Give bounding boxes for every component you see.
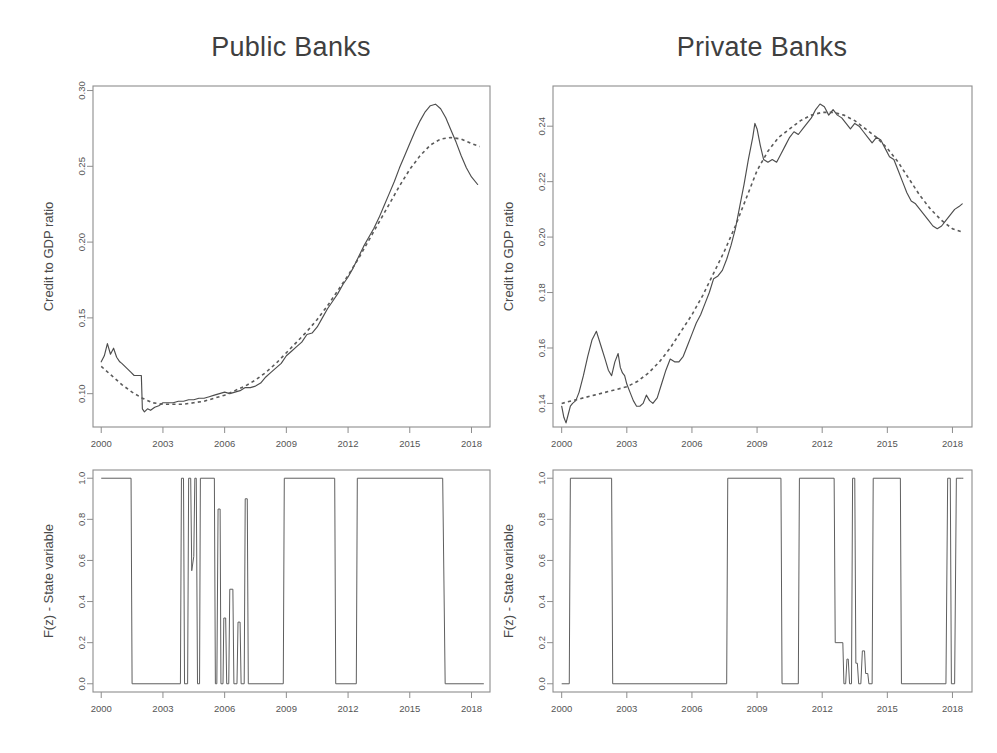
y-tick-label: 0.18 <box>536 283 547 302</box>
y-tick-label: 0.22 <box>536 172 547 191</box>
x-tick-label: 2018 <box>942 438 963 449</box>
y-tick-label: 0.6 <box>76 554 87 567</box>
y-tick-label: 1.0 <box>536 472 547 485</box>
panel-public-state: 20002003200620092012201520180.00.20.40.6… <box>41 470 490 714</box>
x-tick-label: 2003 <box>616 703 637 714</box>
y-tick-label: 0.20 <box>76 233 87 252</box>
y-tick-label: 0.8 <box>536 513 547 526</box>
figure-canvas: Public Banks2000200320062009201220152018… <box>0 0 997 753</box>
panel-title-public-credit: Public Banks <box>211 32 371 62</box>
x-tick-label: 2012 <box>337 438 358 449</box>
y-tick-label: 0.16 <box>536 339 547 358</box>
y-tick-label: 0.20 <box>536 228 547 247</box>
x-tick-label: 2003 <box>616 438 637 449</box>
y-tick-label: 0.14 <box>536 394 547 413</box>
y-tick-label: 0.2 <box>536 636 547 649</box>
plot-frame-public-state <box>93 470 490 692</box>
y-axis-title-public-state: F(z) - State variable <box>41 524 56 638</box>
x-tick-label: 2009 <box>276 438 297 449</box>
y-tick-label: 0.4 <box>76 595 87 608</box>
y-tick-label: 0.0 <box>536 677 547 690</box>
panel-private-state: 20002003200620092012201520180.00.20.40.6… <box>501 470 972 714</box>
x-tick-label: 2015 <box>399 703 420 714</box>
x-tick-label: 2006 <box>681 438 702 449</box>
x-tick-label: 2000 <box>91 703 112 714</box>
series-solid-private-credit <box>562 104 963 423</box>
x-tick-label: 2006 <box>214 703 235 714</box>
x-tick-label: 2003 <box>152 438 173 449</box>
y-tick-label: 0.25 <box>76 157 87 176</box>
x-tick-label: 2015 <box>399 438 420 449</box>
plot-frame-private-credit <box>553 86 972 427</box>
x-tick-label: 2018 <box>461 438 482 449</box>
x-tick-label: 2006 <box>214 438 235 449</box>
x-tick-label: 2003 <box>152 703 173 714</box>
x-tick-label: 2006 <box>681 703 702 714</box>
x-tick-label: 2000 <box>551 438 572 449</box>
x-tick-label: 2018 <box>942 703 963 714</box>
y-tick-label: 0.0 <box>76 677 87 690</box>
x-tick-label: 2000 <box>91 438 112 449</box>
panel-title-private-credit: Private Banks <box>677 32 847 62</box>
panel-private-credit: Private Banks200020032006200920122015201… <box>501 32 972 449</box>
y-tick-label: 0.15 <box>76 309 87 328</box>
x-tick-label: 2000 <box>551 703 572 714</box>
y-tick-label: 1.0 <box>76 472 87 485</box>
series-state-public-state <box>101 478 484 684</box>
y-tick-label: 0.30 <box>76 81 87 100</box>
y-tick-label: 0.2 <box>76 636 87 649</box>
y-axis-title-private-state: F(z) - State variable <box>501 524 516 638</box>
plot-frame-private-state <box>553 470 972 692</box>
y-tick-label: 0.8 <box>76 513 87 526</box>
series-state-private-state <box>562 478 964 684</box>
series-dashed-private-credit <box>562 112 961 403</box>
x-tick-label: 2015 <box>877 703 898 714</box>
x-tick-label: 2012 <box>812 703 833 714</box>
x-tick-label: 2018 <box>461 703 482 714</box>
x-tick-label: 2012 <box>812 438 833 449</box>
y-tick-label: 0.6 <box>536 554 547 567</box>
x-tick-label: 2012 <box>337 703 358 714</box>
x-tick-label: 2009 <box>276 703 297 714</box>
series-solid-public-credit <box>101 104 477 412</box>
series-dashed-public-credit <box>101 138 479 405</box>
y-tick-label: 0.4 <box>536 595 547 608</box>
x-tick-label: 2015 <box>877 438 898 449</box>
y-tick-label: 0.24 <box>536 117 547 136</box>
x-tick-label: 2009 <box>747 703 768 714</box>
panel-public-credit: Public Banks2000200320062009201220152018… <box>41 32 490 449</box>
y-tick-label: 0.10 <box>76 384 87 403</box>
x-tick-label: 2009 <box>747 438 768 449</box>
y-axis-title-private-credit: Credit to GDP ratio <box>501 202 516 312</box>
plot-frame-public-credit <box>93 86 490 427</box>
y-axis-title-public-credit: Credit to GDP ratio <box>41 202 56 312</box>
